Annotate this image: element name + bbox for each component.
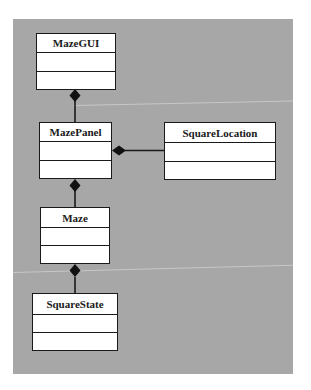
scan-artifact-line xyxy=(73,100,293,106)
class-name: SquareLocation xyxy=(165,123,275,143)
class-box-squarelocation[interactable]: SquareLocation xyxy=(164,122,276,180)
class-name: Maze xyxy=(41,208,109,228)
class-name: MazePanel xyxy=(40,123,111,142)
class-name: SquareState xyxy=(33,294,117,315)
attributes-compartment xyxy=(40,142,111,161)
scan-artifact-line xyxy=(13,265,293,273)
class-name: MazeGUI xyxy=(37,34,115,53)
class-box-squarestate[interactable]: SquareState xyxy=(32,293,118,351)
methods-compartment xyxy=(33,333,117,350)
methods-compartment xyxy=(40,161,111,179)
attributes-compartment xyxy=(165,143,275,162)
methods-compartment xyxy=(165,162,275,180)
class-box-mazegui[interactable]: MazeGUI xyxy=(36,33,116,90)
methods-compartment xyxy=(37,72,115,90)
methods-compartment xyxy=(41,246,109,263)
attributes-compartment xyxy=(33,315,117,333)
attributes-compartment xyxy=(37,53,115,72)
attributes-compartment xyxy=(41,228,109,246)
class-box-mazepanel[interactable]: MazePanel xyxy=(39,122,112,179)
class-box-maze[interactable]: Maze xyxy=(40,207,110,264)
